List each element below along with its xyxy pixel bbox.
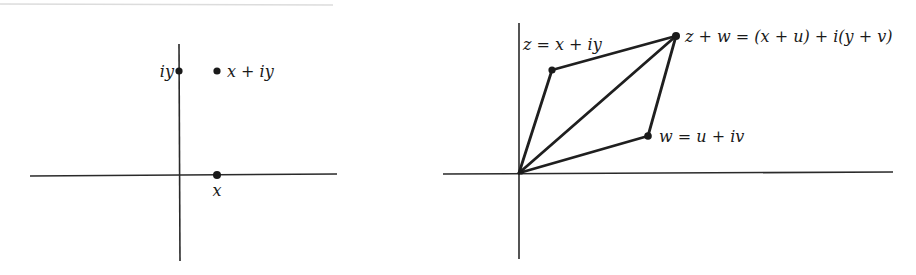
point-z-plus-w [672,32,680,40]
label-z-plus-w: z + w = (x + u) + i(y + v) [684,27,893,46]
point-x-plus-iy [213,67,220,74]
right-horizontal-axis [443,172,893,174]
label-x-plus-iy: x + iy [227,62,275,81]
label-iy: iy [160,62,175,81]
left-horizontal-axis [30,174,337,176]
edge-w-to-sum [648,36,676,136]
right-panel: z = x + iy z + w = (x + u) + i(y + v) w … [443,23,893,259]
label-z: z = x + iy [522,35,603,54]
point-iy [175,67,182,74]
label-x: x [212,181,221,200]
label-w: w = u + iv [659,127,744,146]
point-z [548,66,555,73]
point-w [644,132,652,140]
left-vertical-axis [179,44,180,261]
point-x [213,171,221,179]
top-rule [0,4,333,5]
complex-plane-figure: iy x + iy x z = x + iy z + w = (x + u) +… [0,0,916,275]
left-panel: iy x + iy x [30,44,337,261]
point-origin [518,169,523,174]
